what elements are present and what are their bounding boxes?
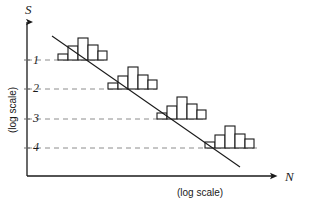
x-axis-title: N [284, 169, 295, 184]
histogram-cluster-3 [157, 97, 206, 119]
histogram-bar [225, 126, 235, 148]
histogram-bar [187, 104, 197, 119]
histogram-bar [235, 134, 245, 148]
histogram-bar [138, 75, 148, 89]
y-tick-label-3: 3 [32, 111, 39, 125]
histogram-bar [108, 83, 118, 89]
axis-titles-group: S N (log scale) (log scale) [7, 2, 295, 198]
histogram-bar [197, 110, 206, 119]
histogram-bar [98, 51, 107, 60]
tick-labels-group: 1 2 3 4 [32, 53, 39, 154]
trend-line [52, 36, 240, 167]
y-axis-scale-label: (log scale) [7, 87, 18, 133]
histogram-bar [157, 113, 167, 119]
x-axis-scale-label: (log scale) [177, 187, 223, 198]
histogram-bar [128, 67, 138, 89]
y-tick-label-4: 4 [33, 140, 39, 154]
y-axis-title: S [25, 2, 32, 17]
y-tick-label-2: 2 [33, 81, 39, 95]
histogram-cluster-2 [108, 67, 157, 89]
histogram-bar [177, 97, 187, 119]
axes-group [27, 22, 272, 176]
figure-canvas: 1 2 3 4 S N (log scale) (log scale) [0, 0, 313, 206]
histogram-cluster-4 [205, 126, 254, 148]
histogram-bar [245, 139, 254, 148]
histogram-bar [148, 80, 157, 89]
histogram-bar [78, 38, 88, 60]
histogram-bar [88, 45, 98, 60]
y-tick-label-1: 1 [33, 53, 39, 67]
species-area-figure: 1 2 3 4 S N (log scale) (log scale) [0, 0, 313, 206]
histogram-clusters-group [58, 38, 254, 148]
histogram-bar [58, 54, 68, 60]
histogram-bar [215, 135, 225, 148]
histogram-bar [205, 142, 215, 148]
